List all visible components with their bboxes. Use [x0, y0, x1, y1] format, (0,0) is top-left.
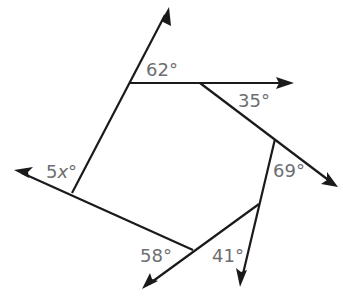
angle-labels: 62° 35° 69° 41° 58° 5x°: [46, 59, 305, 266]
arrowheads: [14, 7, 338, 289]
angle-label-f: 5x°: [46, 161, 77, 182]
angle-label-c: 69°: [273, 160, 305, 181]
angle-label-a: 62°: [146, 59, 178, 80]
ray-e-f: [22, 173, 193, 250]
ray-c-d: [242, 139, 275, 278]
arrowhead-lower-right-icon: [321, 172, 338, 187]
polygon-exterior-angles-diagram: 62° 35° 69° 41° 58° 5x°: [0, 0, 343, 299]
angle-label-b: 35°: [238, 90, 270, 111]
arrowhead-up-icon: [161, 7, 171, 26]
rays: [22, 15, 331, 284]
angle-label-f-variable: x: [56, 161, 68, 182]
angle-label-d: 41°: [212, 245, 244, 266]
angle-label-f-coefficient: 5: [46, 161, 57, 182]
angle-label-f-unit: °: [68, 161, 77, 182]
ray-f-a: [72, 15, 165, 193]
angle-label-e: 58°: [140, 245, 172, 266]
arrowhead-lower-left-icon: [142, 273, 158, 289]
arrowhead-down-icon: [236, 268, 247, 287]
